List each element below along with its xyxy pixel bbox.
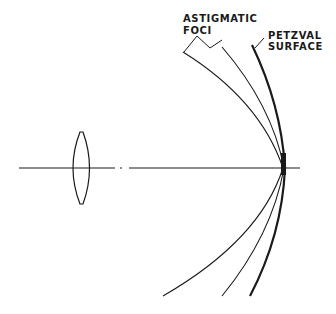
petzval-leader-line (255, 38, 264, 48)
petzval-surface-curve (250, 45, 285, 296)
sagittal-focus-curve (222, 47, 284, 296)
optics-diagram: ASTIGMATIC FOCI PETZVAL SURFACE (0, 0, 336, 314)
astigmatic-label-line1: ASTIGMATIC (183, 13, 258, 24)
astigmatic-label-line2: FOCI (183, 25, 212, 36)
astigmatic-leader-line (184, 36, 222, 52)
petzval-label-line1: PETZVAL (268, 30, 322, 41)
focal-point-mark (281, 153, 286, 175)
tangential-focus-curve (163, 52, 283, 296)
petzval-label-line2: SURFACE (268, 41, 323, 52)
